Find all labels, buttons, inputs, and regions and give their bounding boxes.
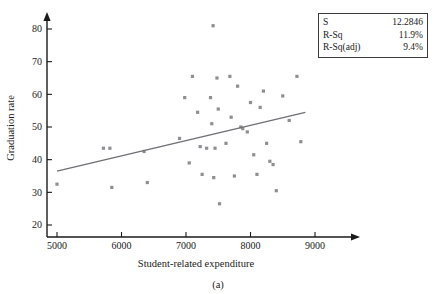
x-axis-title: Student-related expenditure [138, 258, 255, 269]
statistics-row: S12.2846 [323, 16, 423, 29]
data-point [55, 183, 58, 186]
data-point [268, 160, 271, 163]
data-point [108, 147, 111, 150]
data-point [199, 145, 202, 148]
x-tick-label: 6000 [112, 240, 132, 251]
statistic-label: R-Sq(adj) [323, 41, 378, 54]
data-point [288, 119, 291, 122]
data-point [191, 75, 194, 78]
data-point [110, 186, 113, 189]
data-point [262, 89, 265, 92]
data-point [217, 107, 220, 110]
data-point [146, 181, 149, 184]
regression-line-segment [57, 112, 305, 171]
data-point [236, 85, 239, 88]
data-point [183, 96, 186, 99]
y-axis-arrowhead [43, 12, 50, 21]
statistic-label: R-Sq [323, 29, 378, 42]
data-point [210, 122, 213, 125]
statistics-box: S12.2846R-Sq11.9%R-Sq(adj)9.4% [318, 13, 428, 58]
data-point [259, 106, 262, 109]
y-tick-label: 30 [32, 187, 42, 198]
data-point [209, 96, 212, 99]
data-point [252, 153, 255, 156]
data-point [228, 75, 231, 78]
figure-caption: (a) [212, 279, 224, 291]
statistics-row: R-Sq(adj)9.4% [323, 41, 423, 54]
x-tick-label: 9000 [305, 240, 325, 251]
x-tick-label: 5000 [47, 240, 67, 251]
data-point [249, 101, 252, 104]
data-point [275, 189, 278, 192]
y-tick-label: 70 [32, 56, 42, 67]
data-point [218, 202, 221, 205]
data-point [233, 174, 236, 177]
data-point [281, 94, 284, 97]
data-point [215, 76, 218, 79]
regression-line [57, 112, 305, 171]
y-tick-label: 20 [32, 219, 42, 230]
data-point [299, 140, 302, 143]
data-point [295, 75, 298, 78]
data-point [271, 163, 274, 166]
y-tick-label: 50 [32, 121, 42, 132]
statistic-label: S [323, 16, 378, 29]
data-point [224, 142, 227, 145]
statistic-value: 9.4% [378, 41, 423, 54]
data-point [201, 173, 204, 176]
x-axis-arrowhead [351, 233, 360, 240]
data-point [230, 116, 233, 119]
data-point [255, 173, 258, 176]
data-point [265, 142, 268, 145]
y-axis-title: Graduation rate [5, 95, 16, 161]
y-tick-label: 80 [32, 23, 42, 34]
data-point [246, 130, 249, 133]
statistics-row: R-Sq11.9% [323, 29, 423, 42]
statistic-value: 12.2846 [378, 16, 423, 29]
data-point [196, 111, 199, 114]
statistic-value: 11.9% [378, 29, 423, 42]
x-tick-label: 8000 [241, 240, 261, 251]
statistics-table: S12.2846R-Sq11.9%R-Sq(adj)9.4% [323, 16, 423, 54]
y-tick-label: 60 [32, 89, 42, 100]
data-point [212, 176, 215, 179]
data-point [205, 147, 208, 150]
data-point [178, 137, 181, 140]
axes [43, 12, 360, 241]
y-tick-label: 40 [32, 154, 42, 165]
data-points [55, 24, 302, 205]
x-tick-label: 7000 [176, 240, 196, 251]
scatter-plot-figure: 5000600070008000900020304050607080 Gradu… [0, 0, 438, 294]
data-point [211, 24, 214, 27]
axis-ticks [47, 29, 315, 237]
data-point [213, 147, 216, 150]
data-point [188, 161, 191, 164]
data-point [102, 147, 105, 150]
